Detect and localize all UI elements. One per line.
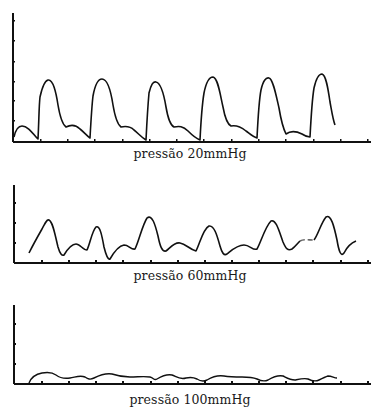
waveform-line [29, 372, 337, 383]
waveform-line-end [314, 217, 356, 255]
chart-caption-100mmhg: pressão 100mmHg [0, 392, 380, 407]
waveform-chart-20mmhg [0, 0, 380, 165]
chart-panel-100mmhg: pressão 100mmHg [0, 290, 380, 419]
x-ticks [41, 260, 369, 262]
waveform-line [14, 74, 335, 140]
waveform-dashed-segment [300, 240, 314, 241]
chart-caption-20mmhg: pressão 20mmHg [0, 146, 380, 161]
waveform-line [29, 217, 300, 259]
chart-caption-60mmhg: pressão 60mmHg [0, 268, 380, 283]
chart-panel-20mmhg: pressão 20mmHg [0, 0, 380, 165]
chart-panel-60mmhg: pressão 60mmHg [0, 165, 380, 290]
